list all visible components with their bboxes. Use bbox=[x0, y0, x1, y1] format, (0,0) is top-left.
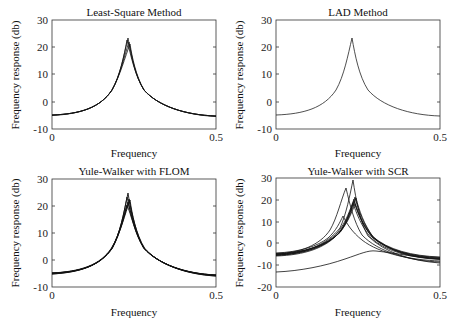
plot-title: LAD Method bbox=[328, 6, 388, 18]
x-tick-label: 0 bbox=[49, 131, 55, 143]
y-tick-label: -10 bbox=[257, 259, 272, 271]
x-axis-label: Frequency bbox=[111, 147, 158, 159]
y-tick-label: 20 bbox=[261, 194, 273, 206]
plot-title: Yule-Walker with FLOM bbox=[79, 165, 190, 177]
y-axis-label: Frequency response (db) bbox=[9, 20, 22, 129]
y-tick-label: 20 bbox=[261, 41, 273, 53]
x-tick-label: 0 bbox=[49, 289, 55, 301]
response-curves bbox=[52, 38, 216, 117]
y-axis-label: Frequency response (dh) bbox=[233, 178, 246, 287]
y-tick-label: 0 bbox=[267, 237, 273, 249]
axes-frame bbox=[276, 20, 440, 129]
y-ticks bbox=[276, 47, 440, 102]
y-tick-label: -10 bbox=[33, 281, 48, 293]
y-tick-label: -10 bbox=[257, 123, 272, 135]
response-curve bbox=[276, 38, 440, 116]
x-tick-label: 0 bbox=[273, 289, 279, 301]
y-axis-label: Frequency response (db) bbox=[233, 20, 246, 129]
y-tick-label: 30 bbox=[261, 14, 273, 26]
y-tick-label: 20 bbox=[37, 41, 49, 53]
x-axis-label: Frequency bbox=[111, 306, 158, 318]
y-tick-label: 10 bbox=[261, 68, 273, 80]
y-tick-label: 30 bbox=[261, 172, 273, 184]
y-tick-label: 30 bbox=[37, 14, 49, 26]
x-tick-label: 0.5 bbox=[433, 131, 447, 143]
y-tick-label: -10 bbox=[33, 123, 48, 135]
y-tick-label: 10 bbox=[37, 68, 49, 80]
x-tick-label: 0.5 bbox=[209, 289, 223, 301]
response-curves bbox=[52, 193, 216, 276]
y-tick-label: 20 bbox=[37, 200, 49, 212]
x-tick-label: 0.5 bbox=[433, 289, 447, 301]
y-tick-label: 0 bbox=[267, 96, 273, 108]
plot-title: Least-Square Method bbox=[87, 6, 182, 18]
x-tick-label: 0.5 bbox=[209, 131, 223, 143]
plot-yule-walker-flom: Yule-Walker with FLOM 30 20 10 0 -10 0 0… bbox=[9, 165, 223, 318]
plot-least-square: Least-Square Method 30 20 10 0 -10 0 0.5… bbox=[9, 6, 223, 159]
y-tick-label: 0 bbox=[43, 254, 49, 266]
figure: Least-Square Method 30 20 10 0 -10 0 0.5… bbox=[0, 0, 456, 327]
axes-frame bbox=[276, 178, 440, 287]
x-axis-label: Frequency bbox=[335, 147, 382, 159]
plot-yule-walker-scr: Yule-Walker with SCR 30 20 10 0 -10 -20 … bbox=[233, 165, 447, 318]
y-ticks bbox=[52, 206, 216, 260]
y-tick-label: 10 bbox=[37, 227, 49, 239]
y-tick-label: 30 bbox=[37, 173, 49, 185]
y-tick-label: -20 bbox=[257, 281, 272, 293]
plot-title: Yule-Walker with SCR bbox=[307, 165, 409, 177]
y-axis-label: Frequency response (db) bbox=[9, 178, 22, 287]
x-axis-label: Frequency bbox=[335, 306, 382, 318]
y-tick-label: 10 bbox=[261, 216, 273, 228]
x-tick-label: 0 bbox=[273, 131, 279, 143]
y-ticks bbox=[52, 47, 216, 102]
response-curves bbox=[276, 180, 440, 272]
plot-lad: LAD Method 30 20 10 0 -10 0 0.5 Frequenc… bbox=[233, 6, 447, 159]
y-tick-label: 0 bbox=[43, 96, 49, 108]
